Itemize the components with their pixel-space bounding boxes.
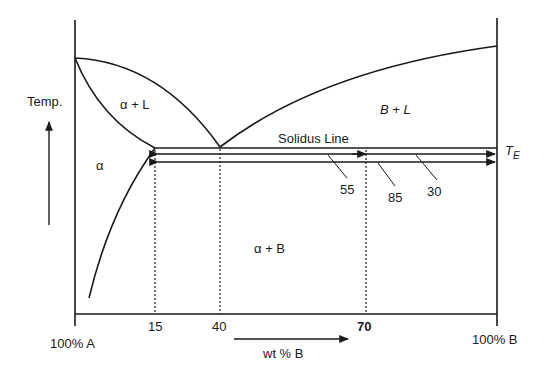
liquidus-line-b: [220, 46, 497, 147]
x-axis-label: wt % B: [262, 346, 303, 361]
leader-85: [378, 163, 395, 186]
y-axis-label: Temp.: [27, 94, 62, 109]
x-axis-right-label: 100% B: [472, 332, 518, 347]
region-b-liquid: B + L: [380, 102, 411, 117]
x-tick-70: 70: [357, 319, 371, 334]
phase-diagram: α + L α B + L α + B Solidus Line TE 55 8…: [0, 0, 549, 379]
segment-label-55: 55: [340, 182, 354, 197]
leader-55: [328, 155, 347, 178]
eutectic-temperature-label: TE: [505, 143, 520, 161]
segment-label-85: 85: [388, 190, 402, 205]
region-alpha-b: α + B: [254, 241, 285, 256]
x-tick-40: 40: [212, 319, 226, 334]
x-tick-15: 15: [148, 319, 162, 334]
solidus-line-label: Solidus Line: [278, 131, 349, 146]
leader-30: [416, 155, 437, 180]
segment-label-30: 30: [427, 184, 441, 199]
x-axis-left-label: 100% A: [50, 336, 95, 351]
region-alpha-liquid: α + L: [120, 97, 150, 112]
region-alpha: α: [96, 158, 104, 173]
